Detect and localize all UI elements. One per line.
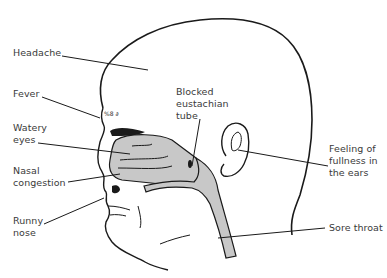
nostril [112, 185, 120, 193]
label-nasal-congestion: Nasal congestion [13, 165, 66, 189]
ear-inner [231, 132, 241, 151]
label-ear-fullness: Feeling of fullness in the ears [329, 143, 378, 179]
leader-runny-nose [44, 198, 104, 224]
label-sore-throat: Sore throat [329, 222, 383, 234]
ear-icon [221, 123, 249, 176]
leader-ear-fullness [238, 150, 328, 166]
leader-fever [42, 97, 100, 118]
label-headache: Headache [13, 47, 61, 59]
nasal-cavity-shaded [110, 135, 201, 187]
jaw-line [138, 206, 190, 244]
label-blocked-eustachian-tube: Blocked eustachian tube [176, 86, 229, 122]
symptom-diagram: %8 ∂ Headache Fever Watery eyes Nasal co… [0, 0, 387, 278]
label-watery-eyes: Watery eyes [13, 122, 47, 146]
head-outline [100, 19, 312, 235]
label-runny-nose: Runny nose [13, 215, 43, 239]
lips [108, 206, 130, 216]
leader-nasal-congestion [68, 174, 120, 182]
fever-heat-marks-icon: %8 ∂ [104, 110, 119, 117]
leader-headache [62, 56, 148, 70]
leader-sore-throat [218, 228, 325, 238]
label-fever: Fever [13, 88, 39, 100]
eustachian-tube-opening [188, 160, 192, 168]
head-illustration: %8 ∂ [0, 0, 387, 278]
